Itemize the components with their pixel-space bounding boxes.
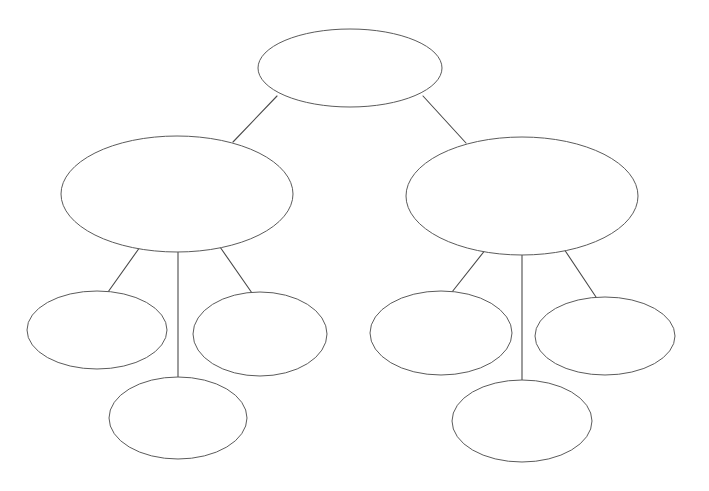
node-leaf-left-2[interactable] [193, 292, 327, 376]
node-ellipse-root[interactable] [258, 29, 442, 107]
node-ellipse-leaf-left-2[interactable] [193, 292, 327, 376]
node-leaf-left-1[interactable] [27, 291, 167, 369]
node-root[interactable] [258, 29, 442, 107]
node-ellipse-leaf-left-1[interactable] [27, 291, 167, 369]
node-leaf-right-2[interactable] [535, 297, 675, 375]
node-ellipse-branch-right[interactable] [406, 137, 638, 255]
node-leaf-left-3[interactable] [109, 377, 247, 459]
diagram-svg [0, 0, 709, 491]
node-leaf-right-1[interactable] [370, 291, 512, 375]
node-ellipse-leaf-right-1[interactable] [370, 291, 512, 375]
node-ellipse-leaf-left-3[interactable] [109, 377, 247, 459]
diagram-canvas [0, 0, 709, 491]
node-branch-right[interactable] [406, 137, 638, 255]
node-ellipse-leaf-right-3[interactable] [452, 380, 592, 462]
node-ellipse-branch-left[interactable] [61, 136, 293, 252]
node-leaf-right-3[interactable] [452, 380, 592, 462]
node-branch-left[interactable] [61, 136, 293, 252]
node-ellipse-leaf-right-2[interactable] [535, 297, 675, 375]
